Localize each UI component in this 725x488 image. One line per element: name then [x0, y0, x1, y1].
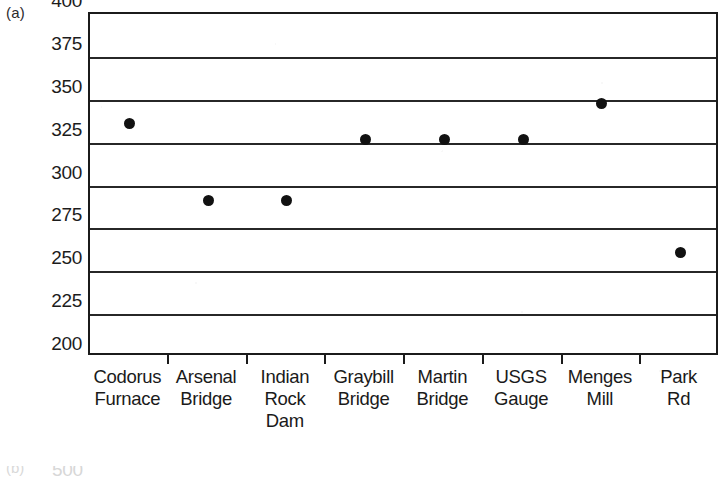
y-axis-tick-label: 375	[24, 34, 82, 53]
data-point	[439, 134, 450, 145]
x-axis-category-label-line: Park	[633, 366, 724, 388]
y-axis-tick-label: 200	[24, 334, 82, 353]
gridline	[90, 143, 716, 145]
x-axis-category-label-line: Menges	[555, 366, 646, 388]
gridline	[90, 228, 716, 230]
data-point	[124, 118, 135, 129]
x-axis-category-label: MartinBridge	[397, 366, 488, 410]
x-axis-tick	[561, 355, 563, 364]
x-axis-tick	[167, 355, 169, 364]
x-axis-category-label: CodorusFurnace	[82, 366, 173, 410]
y-axis-tick-label: 350	[24, 77, 82, 96]
y-axis-tick-label: 300	[24, 163, 82, 182]
x-axis-category-label: ArsenalBridge	[161, 366, 252, 410]
x-axis-category-label-line: USGS	[476, 366, 567, 388]
x-axis-tick	[246, 355, 248, 364]
x-axis-category-label-line: Gauge	[476, 388, 567, 410]
gridline	[90, 57, 716, 59]
plot-area	[88, 12, 718, 355]
y-axis-tick-label: 400	[24, 0, 82, 10]
x-axis-category-label-line: Bridge	[397, 388, 488, 410]
gridline	[90, 271, 716, 273]
x-axis-category-label-line: Arsenal	[161, 366, 252, 388]
figure-page: (a) 400375350325300275250225200 CodorusF…	[0, 0, 725, 488]
y-axis-tick-label: 250	[24, 248, 82, 267]
x-axis-category-label-line: Martin	[397, 366, 488, 388]
next-panel-tick-label: 500	[52, 466, 83, 481]
x-axis-tick	[482, 355, 484, 364]
x-axis-category-label-line: Graybill	[318, 366, 409, 388]
gridline	[90, 314, 716, 316]
x-axis-category-label: MengesMill	[555, 366, 646, 410]
data-point	[203, 195, 214, 206]
data-point	[518, 134, 529, 145]
x-axis-tick	[639, 355, 641, 364]
x-axis-category-label-line: Indian	[240, 366, 331, 388]
x-axis-category-label: ParkRd	[633, 366, 724, 410]
y-axis-tick-labels: 400375350325300275250225200	[22, 0, 82, 343]
x-axis-category-label-line: Rock	[240, 388, 331, 410]
data-point	[360, 134, 371, 145]
panel-label-b: (b)	[6, 466, 24, 476]
x-axis-category-label-line: Furnace	[82, 388, 173, 410]
data-point	[281, 195, 292, 206]
x-axis-tick	[403, 355, 405, 364]
x-axis-category-label-line: Mill	[555, 388, 646, 410]
x-axis-category-label-line: Bridge	[318, 388, 409, 410]
y-axis-tick-label: 325	[24, 120, 82, 139]
y-axis-tick-label: 275	[24, 205, 82, 224]
x-axis-category-label-line: Codorus	[82, 366, 173, 388]
x-axis-tick	[324, 355, 326, 364]
y-axis-tick-label: 225	[24, 291, 82, 310]
data-point	[675, 247, 686, 258]
x-axis-category-label-line: Dam	[240, 410, 331, 432]
x-axis-category-label-line: Bridge	[161, 388, 252, 410]
gridline	[90, 100, 716, 102]
x-axis-category-label-line: Rd	[633, 388, 724, 410]
gridline	[90, 186, 716, 188]
scatter-chart: 400375350325300275250225200 CodorusFurna…	[0, 0, 725, 440]
x-axis-category-label: USGSGauge	[476, 366, 567, 410]
x-axis-category-labels: CodorusFurnaceArsenalBridgeIndianRockDam…	[88, 366, 718, 440]
next-panel-crop: (b) 500	[0, 466, 725, 488]
x-axis-category-label: IndianRockDam	[240, 366, 331, 432]
data-point	[596, 98, 607, 109]
x-axis-category-label: GraybillBridge	[318, 366, 409, 410]
